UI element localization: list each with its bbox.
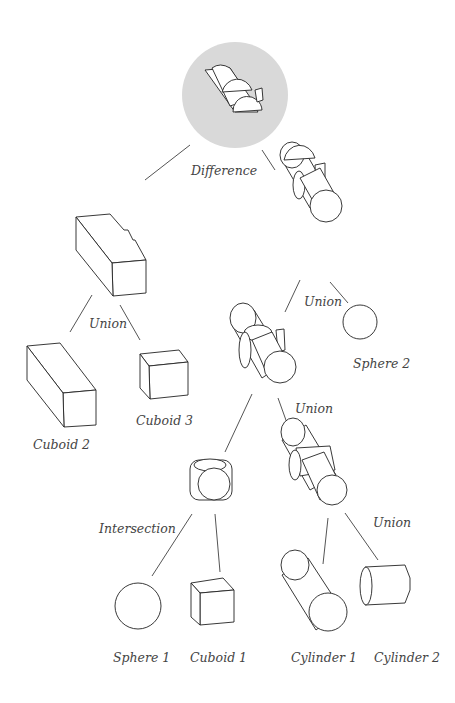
label-cuboid-1: Cuboid 1	[190, 650, 247, 665]
union-right-top-shape	[280, 142, 342, 222]
label-cylinder-2: Cylinder 2	[374, 650, 440, 665]
cuboid-3-shape	[140, 350, 188, 399]
cylinder-2-shape	[360, 565, 410, 605]
label-union-left: Union	[89, 316, 127, 331]
union-mid-shape	[230, 303, 296, 383]
union-cylinders-shape	[281, 418, 347, 505]
label-sphere-2: Sphere 2	[353, 356, 410, 371]
label-cuboid-3: Cuboid 3	[136, 413, 193, 428]
intersection-shape	[190, 459, 232, 500]
difference-result-shape	[182, 42, 288, 148]
label-cylinder-1: Cylinder 1	[291, 650, 357, 665]
label-union-right-top: Union	[304, 294, 342, 309]
label-union-cylinders: Union	[373, 515, 411, 530]
label-union-mid: Union	[295, 401, 333, 416]
cuboid-1-shape	[191, 578, 234, 625]
sphere-1-shape	[115, 583, 161, 629]
cuboid-2-shape	[27, 343, 96, 427]
label-sphere-1: Sphere 1	[113, 650, 170, 665]
label-difference: Difference	[191, 163, 257, 178]
sphere-2-shape	[343, 305, 377, 339]
cylinder-1-shape	[281, 550, 347, 631]
label-intersection: Intersection	[99, 521, 176, 536]
union-left-shape	[76, 214, 146, 296]
csg-tree-diagram: Difference Union Union Sphere 2 Union Cu…	[0, 0, 455, 703]
label-cuboid-2: Cuboid 2	[33, 437, 90, 452]
diagram-graphics	[0, 0, 455, 703]
